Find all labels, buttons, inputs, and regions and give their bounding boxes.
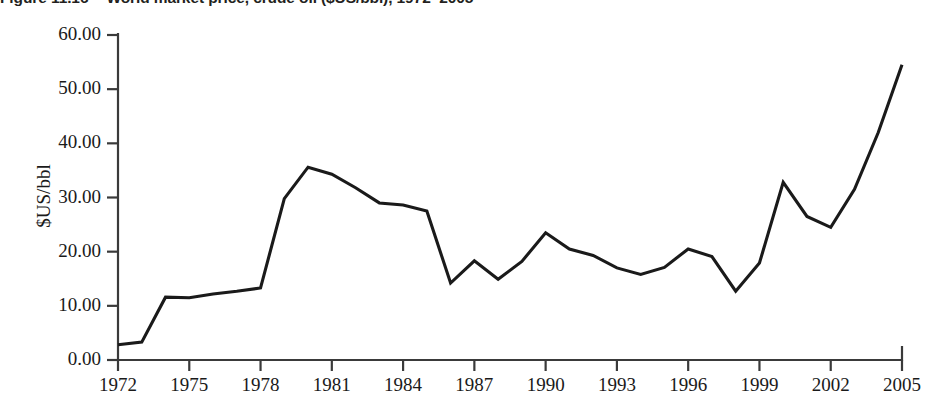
x-axis-ticks <box>118 360 902 371</box>
chart-axes <box>107 34 902 371</box>
line-chart: $US/bbl 0.0010.0020.0030.0040.0050.0060.… <box>0 0 941 407</box>
y-axis-tick-label: 10.00 <box>31 294 101 316</box>
x-axis-tick-label: 1975 <box>154 374 224 396</box>
axis-lines <box>118 34 902 360</box>
y-axis-tick-label: 40.00 <box>31 131 101 153</box>
y-axis-tick-label: 50.00 <box>31 77 101 99</box>
x-axis-tick-label: 1996 <box>653 374 723 396</box>
x-axis-tick-label: 1984 <box>368 374 438 396</box>
y-axis-tick-label: 0.00 <box>31 348 101 370</box>
x-axis-tick-label: 2002 <box>796 374 866 396</box>
y-axis-ticks <box>107 35 118 360</box>
x-axis-tick-label: 1993 <box>582 374 652 396</box>
x-axis-tick-label: 1987 <box>439 374 509 396</box>
chart-canvas <box>0 0 941 407</box>
x-axis-tick-label: 1978 <box>226 374 296 396</box>
x-axis-tick-label: 1999 <box>724 374 794 396</box>
x-axis-tick-label: 1972 <box>83 374 153 396</box>
y-axis-tick-label: 60.00 <box>31 23 101 45</box>
x-axis-tick-label: 1981 <box>297 374 367 396</box>
x-axis-tick-label: 2005 <box>867 374 937 396</box>
data-series-line <box>118 65 902 345</box>
x-axis-tick-label: 1990 <box>511 374 581 396</box>
y-axis-tick-label: 30.00 <box>31 186 101 208</box>
y-axis-tick-label: 20.00 <box>31 240 101 262</box>
